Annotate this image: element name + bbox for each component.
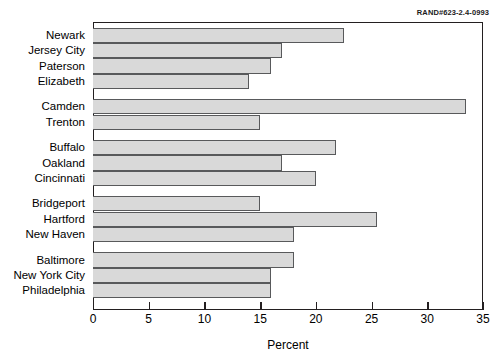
category-label-baltimore: Baltimore xyxy=(36,254,85,266)
x-tick-mark-5 xyxy=(149,302,150,310)
x-tick-label-20: 20 xyxy=(301,313,331,326)
bar-new-york-city xyxy=(93,268,271,283)
x-tick-label-15: 15 xyxy=(245,313,275,326)
x-tick-mark-30 xyxy=(427,302,428,310)
figure-bar-chart: RAND#623-2.4-0993 NewarkJersey CityPater… xyxy=(0,0,500,364)
category-label-paterson: Paterson xyxy=(39,60,85,72)
x-tick-label-5: 5 xyxy=(134,313,164,326)
bar-oakland xyxy=(93,155,282,170)
x-tick-mark-10 xyxy=(204,302,205,310)
category-label-bridgeport: Bridgeport xyxy=(32,197,85,209)
bars-layer xyxy=(93,22,483,310)
bar-new-haven xyxy=(93,227,294,242)
category-label-new-haven: New Haven xyxy=(26,228,85,240)
category-label-hartford: Hartford xyxy=(43,213,85,225)
bar-camden xyxy=(93,99,466,114)
bar-hartford xyxy=(93,212,377,227)
bar-buffalo xyxy=(93,140,336,155)
x-tick-label-0: 0 xyxy=(78,313,108,326)
x-tick-label-30: 30 xyxy=(412,313,442,326)
x-tick-mark-15 xyxy=(260,302,261,310)
bar-jersey-city xyxy=(93,43,282,58)
bar-elizabeth xyxy=(93,74,249,89)
category-label-cincinnati: Cincinnati xyxy=(35,172,86,184)
x-axis-title: Percent xyxy=(93,338,483,352)
rand-catalog-id: RAND#623-2.4-0993 xyxy=(417,8,489,17)
bar-bridgeport xyxy=(93,196,260,211)
bar-baltimore xyxy=(93,252,294,267)
x-tick-label-35: 35 xyxy=(468,313,498,326)
category-label-camden: Camden xyxy=(42,100,85,112)
bar-cincinnati xyxy=(93,171,316,186)
category-labels: NewarkJersey CityPatersonElizabethCamden… xyxy=(0,22,90,310)
bar-trenton xyxy=(93,115,260,130)
category-label-newark: Newark xyxy=(46,29,85,41)
bar-newark xyxy=(93,28,344,43)
bar-paterson xyxy=(93,58,271,73)
category-label-new-york-city: New York City xyxy=(13,269,85,281)
category-label-trenton: Trenton xyxy=(46,116,85,128)
x-tick-mark-35 xyxy=(483,302,484,310)
category-label-elizabeth: Elizabeth xyxy=(38,75,85,87)
x-tick-label-10: 10 xyxy=(189,313,219,326)
category-label-buffalo: Buffalo xyxy=(49,141,85,153)
x-tick-label-25: 25 xyxy=(357,313,387,326)
category-label-philadelphia: Philadelphia xyxy=(22,284,85,296)
x-tick-mark-0 xyxy=(93,302,94,310)
category-label-jersey-city: Jersey City xyxy=(28,44,85,56)
x-tick-mark-20 xyxy=(316,302,317,310)
bar-philadelphia xyxy=(93,283,271,298)
category-label-oakland: Oakland xyxy=(42,157,85,169)
x-tick-mark-25 xyxy=(372,302,373,310)
